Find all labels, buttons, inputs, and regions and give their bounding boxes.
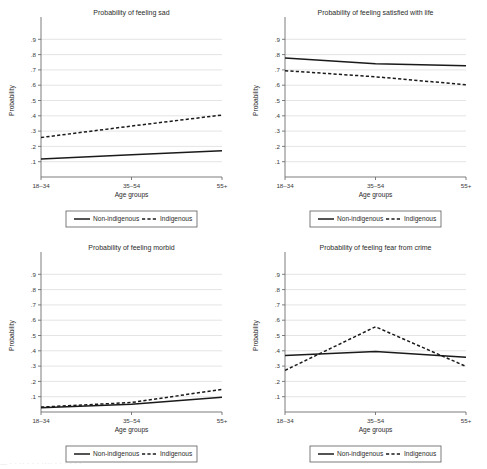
y-tick-label: .3: [31, 127, 37, 134]
series-line-dashed: [285, 327, 466, 371]
series-line-dashed: [41, 115, 222, 137]
x-tick-label: 35–54: [367, 182, 385, 189]
y-tick-label: .5: [31, 97, 37, 104]
y-tick-label: .3: [275, 127, 281, 134]
y-tick-label: .1: [275, 393, 281, 400]
y-axis-title: Probability: [8, 319, 16, 350]
legend-label-non-indigenous: Non-indigenous: [337, 215, 384, 223]
legend-label-non-indigenous: Non-indigenous: [337, 450, 384, 458]
x-tick-label: 55+: [461, 182, 472, 189]
chart-panel-fear-from-crime: Probability of feeling fear from crime.1…: [244, 235, 487, 469]
y-tick-label: .5: [275, 332, 281, 339]
legend-label-indigenous: Indigenous: [404, 450, 437, 458]
y-axis-title: Probability: [252, 84, 260, 115]
y-tick-label: .1: [275, 158, 281, 165]
figure-panel-grid: Probability of feeling sad.1.2.3.4.5.6.7…: [0, 0, 487, 469]
chart-panel-feeling-morbid: Probability of feeling morbid.1.2.3.4.5.…: [0, 235, 243, 469]
y-tick-label: .3: [275, 362, 281, 369]
y-tick-label: .9: [275, 271, 281, 278]
y-tick-label: .9: [275, 36, 281, 43]
x-tick-label: 18–34: [32, 182, 50, 189]
x-axis-title: Age groups: [359, 191, 393, 199]
y-tick-label: .8: [275, 51, 281, 58]
x-tick-label: 55+: [217, 417, 228, 424]
y-tick-label: .3: [31, 362, 37, 369]
y-tick-label: .8: [31, 286, 37, 293]
legend-label-indigenous: Indigenous: [160, 450, 193, 458]
x-axis-title: Age groups: [359, 426, 393, 434]
y-tick-label: .6: [275, 316, 281, 323]
panel-title: Probability of feeling fear from crime: [319, 244, 431, 252]
y-tick-label: .6: [275, 81, 281, 88]
panel-title: Probability of feeling morbid: [88, 244, 174, 252]
panel-title: Probability of feeling sad: [93, 9, 169, 17]
y-tick-label: .6: [31, 316, 37, 323]
y-axis-title: Probability: [252, 319, 260, 350]
y-tick-label: .8: [31, 51, 37, 58]
page-bleed-text: — · · ·· · · · ···· · · · · · ·: [0, 460, 487, 469]
y-tick-label: .2: [31, 143, 37, 150]
legend-label-indigenous: Indigenous: [160, 215, 193, 223]
y-tick-label: .9: [31, 271, 37, 278]
y-tick-label: .5: [275, 97, 281, 104]
x-tick-label: 55+: [461, 417, 472, 424]
y-tick-label: .5: [31, 332, 37, 339]
y-tick-label: .4: [31, 347, 37, 354]
legend-label-non-indigenous: Non-indigenous: [93, 450, 140, 458]
legend-label-indigenous: Indigenous: [404, 215, 437, 223]
chart-panel-satisfied-with-life: Probability of feeling satisfied with li…: [244, 0, 487, 234]
x-tick-label: 18–34: [32, 417, 50, 424]
x-tick-label: 35–54: [367, 417, 385, 424]
series-line-solid: [285, 58, 466, 66]
legend-label-non-indigenous: Non-indigenous: [93, 215, 140, 223]
y-tick-label: .7: [31, 301, 37, 308]
y-tick-label: .6: [31, 81, 37, 88]
x-axis-title: Age groups: [115, 426, 149, 434]
y-tick-label: .4: [275, 347, 281, 354]
panel-title: Probability of feeling satisfied with li…: [318, 9, 434, 17]
y-axis-title: Probability: [8, 84, 16, 115]
y-tick-label: .1: [31, 393, 37, 400]
x-tick-label: 18–34: [276, 182, 294, 189]
x-tick-label: 18–34: [276, 417, 294, 424]
y-tick-label: .9: [31, 36, 37, 43]
y-tick-label: .2: [275, 143, 281, 150]
y-tick-label: .8: [275, 286, 281, 293]
x-tick-label: 35–54: [123, 417, 141, 424]
y-tick-label: .2: [31, 378, 37, 385]
y-tick-label: .7: [275, 66, 281, 73]
y-tick-label: .4: [275, 112, 281, 119]
y-tick-label: .7: [275, 301, 281, 308]
x-tick-label: 35–54: [123, 182, 141, 189]
series-line-dashed: [285, 71, 466, 85]
y-tick-label: .4: [31, 112, 37, 119]
chart-panel-feeling-sad: Probability of feeling sad.1.2.3.4.5.6.7…: [0, 0, 243, 234]
x-axis-title: Age groups: [115, 191, 149, 199]
series-line-solid: [41, 151, 222, 159]
x-tick-label: 55+: [217, 182, 228, 189]
y-tick-label: .2: [275, 378, 281, 385]
y-tick-label: .7: [31, 66, 37, 73]
y-tick-label: .1: [31, 158, 37, 165]
